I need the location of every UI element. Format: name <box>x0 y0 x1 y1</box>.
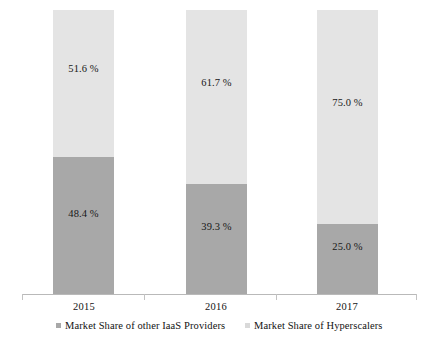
bar-group-2015[interactable]: 51.6 % 48.4 % <box>53 10 114 295</box>
x-axis-tick-label: 2015 <box>49 300 119 314</box>
legend-item-label: Market Share of other IaaS Providers <box>65 319 225 332</box>
bar-segment-hyperscalers[interactable]: 75.0 % <box>317 10 378 224</box>
legend-item-other-iaas[interactable]: Market Share of other IaaS Providers <box>56 318 225 332</box>
x-axis-line <box>22 294 417 295</box>
bar-segment-other-iaas[interactable]: 39.3 % <box>186 184 247 295</box>
bar-segment-hyperscalers[interactable]: 61.7 % <box>186 10 247 184</box>
bar-segment-label: 61.7 % <box>201 78 231 89</box>
bar-segment-label: 48.4 % <box>68 209 98 220</box>
x-axis-tick-label: 2016 <box>181 300 251 314</box>
bar-segment-other-iaas[interactable]: 25.0 % <box>317 224 378 295</box>
square-marker-icon <box>56 323 61 328</box>
legend-item-label: Market Share of Hyperscalers <box>254 319 382 332</box>
bar-segment-label: 51.6 % <box>68 64 98 75</box>
plot-area: 51.6 % 48.4 % 61.7 % 39.3 % 75.0 % 25.0 … <box>22 8 417 295</box>
square-marker-icon <box>245 323 250 328</box>
bar-group-2016[interactable]: 61.7 % 39.3 % <box>186 10 247 295</box>
x-axis-labels: 2015 2016 2017 <box>22 300 417 316</box>
stacked-bar-chart: 51.6 % 48.4 % 61.7 % 39.3 % 75.0 % 25.0 … <box>0 0 430 345</box>
bar-segment-label: 75.0 % <box>332 98 362 109</box>
legend-item-hyperscalers[interactable]: Market Share of Hyperscalers <box>245 318 382 332</box>
chart-legend: Market Share of other IaaS Providers Mar… <box>0 318 430 336</box>
x-axis-tick-label: 2017 <box>312 300 382 314</box>
bar-group-2017[interactable]: 75.0 % 25.0 % <box>317 10 378 295</box>
bar-segment-other-iaas[interactable]: 48.4 % <box>53 157 114 295</box>
bar-segment-hyperscalers[interactable]: 51.6 % <box>53 10 114 157</box>
bar-segment-label: 39.3 % <box>201 222 231 233</box>
bar-segment-label: 25.0 % <box>332 242 362 253</box>
